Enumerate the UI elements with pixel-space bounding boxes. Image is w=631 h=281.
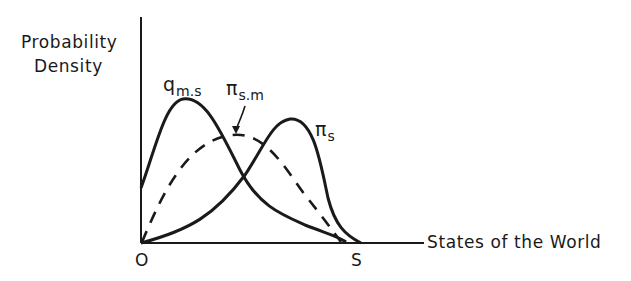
x-axis-label: States of the World xyxy=(427,234,601,251)
arrowhead-icon xyxy=(232,126,240,134)
q-symbol: q xyxy=(163,73,175,95)
y-axis-label-line2: Density xyxy=(34,58,103,75)
label-q-ms: qm.s xyxy=(163,75,201,94)
label-pi-s: πs xyxy=(315,120,335,139)
origin-label: O xyxy=(135,252,149,269)
q-subscript: m.s xyxy=(176,83,201,99)
end-label: S xyxy=(351,252,362,269)
pi-sm-subscript: s.m xyxy=(238,87,263,103)
label-pi-sm: πs.m xyxy=(226,79,264,98)
pi-s-subscript: s xyxy=(327,128,334,144)
pi-symbol: π xyxy=(315,118,326,140)
pi-symbol: π xyxy=(226,77,237,99)
y-axis-label-line1: Probability xyxy=(21,34,117,51)
